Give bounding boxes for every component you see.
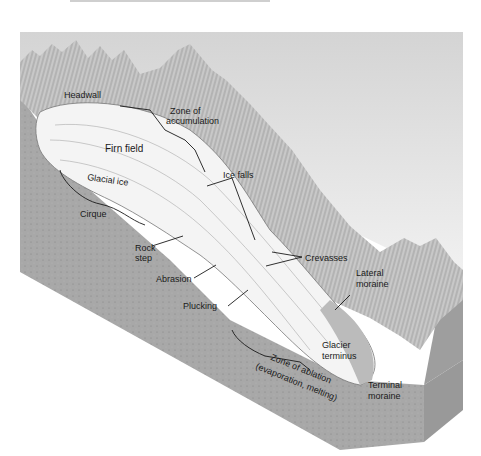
label-terminal-moraine-line1: Terminal: [368, 380, 402, 390]
label-lateral-moraine-line1: Lateral: [356, 268, 384, 278]
glacier-block-illustration: [0, 0, 481, 456]
label-zone-of-accumulation-line2: accumulation: [166, 116, 219, 126]
label-rock-step-line1: Rock: [135, 243, 156, 253]
label-glacier-terminus-line2: terminus: [322, 351, 357, 361]
label-terminal-moraine-line2: moraine: [368, 391, 401, 401]
label-ice-falls: Ice falls: [223, 170, 254, 180]
label-cirque: Cirque: [80, 209, 107, 219]
label-glacier-terminus-line1: Glacier: [322, 340, 351, 350]
label-firn-field: Firn field: [105, 144, 143, 154]
label-abrasion: Abrasion: [156, 274, 192, 284]
label-zone-of-accumulation-line1: Zone of: [170, 106, 201, 116]
label-headwall: Headwall: [64, 90, 101, 100]
glacier-diagram: Headwall Zone of accumulation Firn field…: [0, 0, 481, 456]
label-crevasses: Crevasses: [305, 253, 348, 263]
label-plucking: Plucking: [183, 301, 217, 311]
label-rock-step-line2: step: [135, 253, 152, 263]
label-lateral-moraine-line2: moraine: [356, 279, 389, 289]
